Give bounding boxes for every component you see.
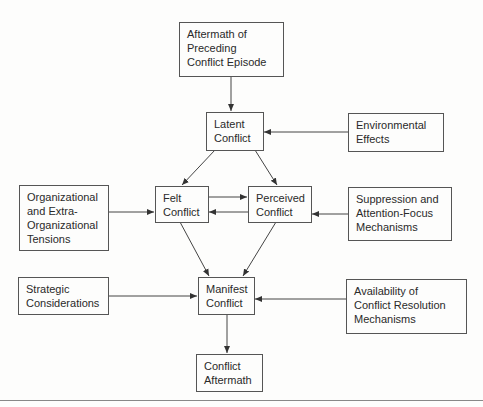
node-manifest-conflict: Manifest Conflict <box>198 277 255 315</box>
node-conflict-aftermath: Conflict Aftermath <box>196 354 263 392</box>
node-felt-conflict: Felt Conflict <box>155 186 209 223</box>
node-latent-conflict: Latent Conflict <box>206 112 264 151</box>
node-suppression-mechanisms: Suppression and Attention-Focus Mechanis… <box>348 187 452 241</box>
node-aftermath-preceding: Aftermath of Preceding Conflict Episode <box>179 22 284 77</box>
node-availability-resolution: Availability of Conflict Resolution Mech… <box>346 279 467 334</box>
node-organizational-tensions: Organizational and Extra- Organizational… <box>19 185 109 251</box>
arrow-latent-to-felt <box>182 150 215 185</box>
arrow-felt-to-manifest <box>180 222 209 276</box>
node-environmental-effects: Environmental Effects <box>348 113 444 152</box>
arrow-perceived-to-manifest <box>243 222 276 276</box>
node-perceived-conflict: Perceived Conflict <box>248 186 312 223</box>
bottom-divider <box>0 400 483 401</box>
arrow-latent-to-perceived <box>255 150 277 185</box>
node-strategic-considerations: Strategic Considerations <box>18 277 109 315</box>
